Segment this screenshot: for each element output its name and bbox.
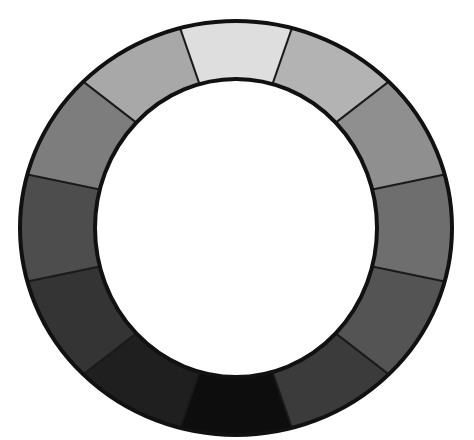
figure-canvas: [0, 0, 474, 440]
segmented-ring-chart: [0, 0, 474, 440]
ring-segment-10[interactable]: [20, 174, 100, 281]
ring-inner-border: [95, 79, 377, 377]
ring-segment-04[interactable]: [372, 174, 452, 281]
